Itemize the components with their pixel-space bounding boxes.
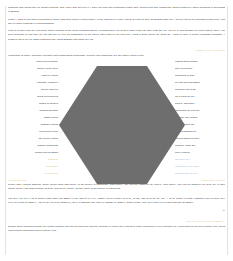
left-line: However, social — [8, 74, 58, 78]
right-blue-line: students should lose — [175, 172, 225, 176]
knowledge-section: Compile these sentences Knowledge is pow… — [8, 49, 225, 179]
left-line: essential. Without it — [8, 81, 58, 85]
right-line: knowledge is also — [175, 74, 225, 78]
hexagon-band: social development, society could never … — [8, 60, 225, 178]
knowledge-right-column: Without them human have developed. knowl… — [175, 60, 225, 178]
left-line: developers of the — [8, 130, 58, 134]
left-line: social development, — [8, 60, 58, 64]
left-margin-rule — [5, 6, 6, 255]
right-line: society. Therefore, — [175, 102, 225, 106]
money-heading-right: happiness? Various — [202, 179, 225, 183]
closing-section-heading: Can love have plenty of money? — [8, 220, 225, 224]
right-line: knowledge we need to — [175, 109, 225, 113]
left-line: society and con — [8, 88, 58, 92]
left-line: software means — [8, 123, 58, 127]
closing-section: Can love have plenty of money? Despite t… — [8, 220, 225, 233]
paragraph-grammar: Grammar and idioms may be another diffic… — [8, 6, 225, 14]
left-line: besides scientific — [8, 109, 58, 113]
paragraph-money-evil: But there are still a lot of others who … — [8, 197, 225, 206]
left-gold-line: Grammar — [8, 158, 58, 162]
right-blue-line: and there are — [175, 158, 225, 162]
right-line: more viewers. — [175, 151, 225, 155]
left-line: pirated movies attract — [8, 151, 58, 155]
right-line: process. The pirated — [175, 116, 225, 120]
left-line: social development — [8, 95, 58, 99]
top-section: Grammar and idioms may be another diffic… — [8, 6, 225, 42]
knowledge-intro-line: Knowledge is power, especially scientifi… — [8, 54, 225, 58]
document-page: Grammar and idioms may be another diffic… — [0, 0, 233, 261]
paragraph-perseverance: Finally, I want to say that overcoming a… — [8, 18, 225, 26]
right-line: know the law of the — [175, 88, 225, 92]
spacer — [8, 213, 225, 218]
band-columns: social development, society could never … — [8, 60, 225, 178]
left-line: society could never — [8, 67, 58, 71]
right-line: marked shares of their — [175, 137, 225, 141]
right-line: for a result we are — [175, 95, 225, 99]
left-line: master social — [8, 116, 58, 120]
left-gold-line: To meet new — [8, 172, 58, 176]
money-heading-left: Can money buy — [8, 179, 27, 183]
money-section: Can money buy happiness? Various people … — [8, 179, 225, 212]
right-blue-line: challenges in the 21st — [175, 165, 225, 169]
right-line: original software so — [175, 130, 225, 134]
knowledge-section-heading: Compile these sentences — [8, 49, 225, 53]
paragraph-closing: Despite these seeming benefits, the pira… — [8, 225, 225, 233]
knowledge-left-column: social development, society could never … — [8, 60, 58, 178]
right-line: we can not understand — [175, 81, 225, 85]
right-line: Without them human — [175, 60, 225, 64]
page-content: Grammar and idioms may be another diffic… — [8, 6, 225, 257]
page-number: 28 — [8, 209, 225, 211]
left-line: the former erodes — [8, 137, 58, 141]
right-line: a great loss to the — [175, 123, 225, 127]
right-line: Similarly, when the — [175, 144, 225, 148]
left-gold-line: be another — [8, 165, 58, 169]
paragraph-small-world: Most of us have had an experience which … — [8, 29, 225, 42]
right-margin-rule — [227, 6, 228, 255]
spacer — [8, 45, 225, 48]
left-line: original counterpart — [8, 144, 58, 148]
right-line: have developed. — [175, 67, 225, 71]
left-line: unable to Spoken — [8, 102, 58, 106]
paragraph-money-source: people have various answers. Some people… — [8, 183, 225, 191]
